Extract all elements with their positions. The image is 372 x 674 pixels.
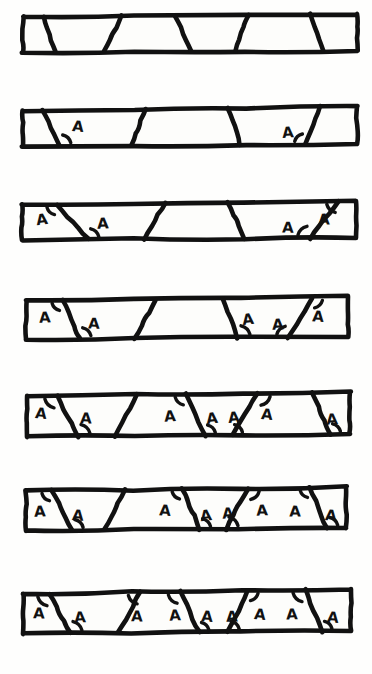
angle-label-A: A [261, 405, 274, 424]
angle-label-A: A [256, 501, 269, 520]
angle-label-A: A [272, 315, 285, 333]
angle-label-A: A [201, 607, 214, 626]
angle-label-A: A [326, 410, 339, 429]
angle-label-A: A [131, 607, 143, 625]
angle-label-A: A [318, 210, 331, 228]
angle-label-A: A [169, 606, 182, 625]
strip-row-5: AAAAAAA [27, 392, 351, 438]
strip-row-6: AAAAAAAA [25, 486, 346, 531]
angle-label-A: A [159, 501, 172, 520]
angle-label-A: A [289, 502, 301, 520]
angle-label-A: A [254, 605, 267, 624]
angle-label-A: A [205, 409, 219, 428]
angle-label-A: A [164, 407, 177, 426]
angle-label-A: A [80, 409, 92, 427]
geometry-figure-root: Parallel lines cut by transversals — cor… [0, 0, 372, 674]
strip-rows-layer: AAAAAAAAAAAAAAAAAAAAAAAAAAAAAAAAAAA [21, 14, 358, 634]
angle-label-A: A [227, 408, 241, 427]
angle-label-A: A [325, 506, 338, 525]
angle-label-A: A [222, 504, 235, 523]
angle-label-A: A [286, 605, 298, 623]
angle-label-A: A [226, 607, 238, 625]
angle-label-A: A [71, 117, 85, 136]
angle-label-A: A [312, 307, 325, 326]
strip-row-7: AAAAAAAAA [23, 589, 352, 634]
strip-row-2: AA [22, 106, 358, 147]
parallel-lines-transversals-diagram: Parallel lines cut by transversals — cor… [0, 0, 372, 674]
angle-label-A: A [34, 502, 47, 520]
strip-outline [23, 589, 352, 634]
strip-row-1 [22, 14, 358, 53]
angle-label-A: A [74, 608, 87, 627]
angle-label-A: A [282, 218, 294, 236]
strip-row-4: AAAAA [25, 296, 348, 340]
angle-label-A: A [97, 214, 110, 232]
angle-label-A: A [88, 314, 100, 332]
strip-row-3: AAAA [21, 201, 356, 241]
angle-label-A: A [33, 604, 45, 622]
angle-label-A: A [241, 310, 255, 329]
angle-label-A: A [39, 308, 52, 326]
angle-label-A: A [34, 404, 48, 423]
angle-label-A: A [327, 608, 340, 627]
angle-label-A: A [282, 123, 295, 142]
angle-label-A: A [72, 506, 85, 525]
